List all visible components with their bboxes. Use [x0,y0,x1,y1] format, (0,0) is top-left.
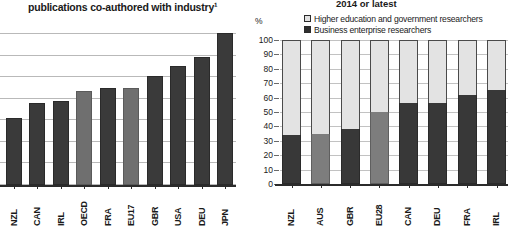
y-label-40: 40 [264,121,273,131]
bar-usa [170,66,186,185]
segment-higher-ed-gov [311,40,330,134]
bar-irl [53,101,69,185]
y-label-0: 0 [268,179,273,189]
x-label-jpn: JPN [217,191,233,226]
x-tick [409,184,410,188]
x-tick [155,185,156,189]
segment-higher-ed-gov [458,40,477,95]
x-tick [37,185,38,189]
x-tick [14,185,15,189]
x-tick [202,185,203,189]
right-x-axis-ticks [280,184,508,188]
left-chart-panel: publications co-authored with industry¹ … [0,0,252,226]
y-tick [274,54,279,55]
x-tick [438,184,439,188]
legend-item-higher-ed-gov: Higher education and government research… [304,13,483,24]
x-label-text: IRL [53,191,69,226]
legend-label-higher-ed-gov: Higher education and government research… [314,14,483,24]
y-label-60: 60 [264,93,273,103]
bar-cell [217,33,233,185]
x-label-text: NZL [6,191,22,226]
x-label-gbr: GBR [341,190,360,226]
left-x-axis-labels: NZLCANIRLOECDFRAEU17GBRUSADEUJPN [0,191,236,226]
x-label-text: EU28 [370,190,389,226]
y-tick [274,98,279,99]
bar-cell [147,33,163,185]
x-label-irl: IRL [53,191,69,226]
right-x-axis-labels: NZLAUSGBREU28CANDEUFRAIRL [280,190,508,226]
x-label-aus: AUS [311,190,330,226]
x-label-text: USA [170,191,186,226]
right-y-axis-ticks [274,40,279,184]
y-label-100: 100 [259,35,273,45]
bar-cell [53,33,69,185]
x-label-text: DEU [194,191,210,226]
stacked-bar-irl [487,40,506,184]
y-tick [274,141,279,142]
x-label-text: CAN [29,191,45,226]
y-label-80: 80 [264,64,273,74]
x-label-text: JPN [217,191,233,226]
x-label-text: AUS [311,190,330,226]
x-label-usa: USA [170,191,186,226]
bar-jpn [217,33,233,185]
bar-fra [100,88,116,185]
segment-higher-ed-gov [399,40,418,103]
stacked-bar-nzl [282,40,301,184]
segment-business [399,103,418,184]
x-tick [379,184,380,188]
x-tick [131,185,132,189]
x-label-text: OECD [76,191,92,226]
x-label-text: FRA [100,191,116,226]
bar-oecd [76,91,92,185]
x-tick [108,185,109,189]
legend-swatch-light-icon [304,15,311,22]
x-label-text: GBR [341,190,360,226]
y-tick [274,69,279,70]
x-label-text: CAN [399,190,418,226]
y-tick [274,112,279,113]
legend-item-business: Business enterprise researchers [304,24,483,35]
stacked-bar-eu28 [370,40,389,184]
y-label-10: 10 [264,165,273,175]
x-tick [292,184,293,188]
x-label-deu: DEU [428,190,447,226]
bar-nzl [6,118,22,185]
x-label-fra: FRA [458,190,477,226]
x-label-fra: FRA [100,191,116,226]
bar-can [29,103,45,185]
x-tick [61,185,62,189]
x-tick [321,184,322,188]
stacked-bar-can [399,40,418,184]
right-chart-panel: 2014 or latest Higher education and gove… [252,0,515,226]
stacked-bar-fra [458,40,477,184]
y-tick [274,83,279,84]
y-label-50: 50 [264,107,273,117]
x-tick [350,184,351,188]
segment-higher-ed-gov [341,40,360,129]
y-label-30: 30 [264,136,273,146]
bar-cell [100,33,116,185]
y-label-20: 20 [264,150,273,160]
x-label-eu28: EU28 [370,190,389,226]
right-y-axis-unit: % [255,16,263,26]
right-chart-legend: Higher education and government research… [304,13,483,35]
segment-business [311,134,330,184]
x-label-eu17: EU17 [123,191,139,226]
x-label-can: CAN [29,191,45,226]
y-label-70: 70 [264,78,273,88]
right-stacked-bar-series [280,40,508,184]
bar-cell [123,33,139,185]
bar-deu [194,57,210,185]
left-x-axis-ticks [0,185,236,189]
bar-eu17 [123,88,139,185]
bar-cell [76,33,92,185]
x-label-text: EU17 [123,191,139,226]
left-bar-series [0,33,236,185]
left-plot-area [0,33,236,185]
x-label-gbr: GBR [147,191,163,226]
y-tick [274,170,279,171]
bar-gbr [147,76,163,185]
x-label-can: CAN [399,190,418,226]
x-label-nzl: NZL [6,191,22,226]
